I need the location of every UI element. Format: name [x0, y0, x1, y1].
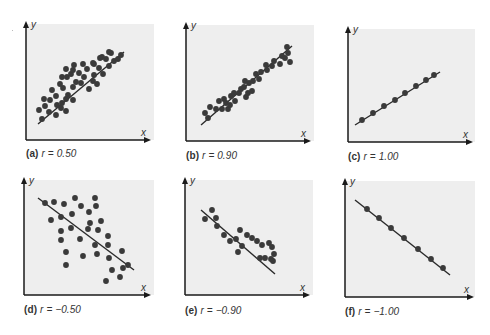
- plot-background: [185, 180, 313, 295]
- data-point: [97, 55, 103, 61]
- panel-label: (f): [345, 306, 355, 317]
- data-point: [87, 220, 93, 226]
- data-point: [59, 74, 65, 80]
- data-point: [80, 253, 86, 259]
- data-point: [254, 238, 260, 244]
- data-point: [269, 63, 275, 69]
- data-point: [63, 249, 69, 255]
- x-axis-label: x: [140, 282, 147, 293]
- data-point: [262, 255, 268, 261]
- data-point: [42, 200, 48, 206]
- data-point: [58, 214, 64, 220]
- data-point: [92, 242, 98, 248]
- data-point: [61, 201, 67, 207]
- data-point: [284, 44, 290, 50]
- data-point: [78, 203, 84, 209]
- panel-label: (a): [26, 148, 39, 159]
- data-point: [232, 98, 238, 104]
- data-point: [423, 77, 429, 83]
- panel-caption-c: (c)r = 1.00: [348, 151, 399, 162]
- correlation-value: r = −0.90: [201, 305, 242, 316]
- data-point: [401, 235, 407, 241]
- data-point: [98, 218, 104, 224]
- scatter-panel-b: yx: [178, 15, 322, 151]
- data-point: [100, 71, 106, 77]
- data-point: [216, 98, 222, 104]
- data-point: [428, 256, 434, 262]
- data-point: [359, 117, 365, 123]
- panel-caption-b: (b)r = 0.90: [186, 150, 237, 161]
- data-point: [264, 67, 270, 73]
- data-point: [65, 92, 71, 98]
- panel-caption-a: (a)r = 0.50: [26, 148, 77, 159]
- plot-background: [345, 181, 475, 297]
- data-point: [96, 65, 102, 71]
- data-point: [237, 227, 243, 233]
- y-axis-label: y: [349, 176, 356, 187]
- panel-caption-e: (e)r = −0.90: [185, 305, 241, 316]
- data-point: [94, 81, 100, 87]
- y-axis-label: y: [352, 24, 359, 35]
- data-point: [270, 258, 276, 264]
- data-point: [253, 71, 259, 77]
- data-point: [259, 242, 265, 248]
- data-point: [381, 103, 387, 109]
- data-point: [70, 84, 76, 90]
- data-point: [91, 72, 97, 78]
- data-point: [39, 116, 45, 122]
- scatter-panel-f: yx: [337, 171, 485, 307]
- data-point: [244, 232, 250, 238]
- x-axis-label: x: [140, 127, 147, 138]
- data-point: [80, 61, 86, 67]
- data-point: [77, 236, 83, 242]
- data-point: [239, 243, 245, 249]
- correlation-value: r = −0.50: [40, 304, 81, 315]
- data-point: [263, 62, 269, 68]
- data-point: [227, 238, 233, 244]
- data-point: [103, 278, 109, 284]
- scatter-plot: yx: [178, 15, 322, 151]
- data-point: [70, 67, 76, 73]
- data-point: [118, 52, 124, 58]
- data-point: [36, 107, 42, 113]
- y-axis-label: y: [28, 175, 35, 186]
- panel-label: (c): [348, 151, 361, 162]
- data-point: [47, 97, 53, 103]
- data-point: [93, 203, 99, 209]
- data-point: [202, 216, 208, 222]
- correlation-value: r = 1.00: [364, 151, 399, 162]
- data-point: [105, 242, 111, 248]
- data-point: [287, 59, 293, 65]
- data-point: [109, 267, 115, 273]
- data-point: [41, 96, 47, 102]
- data-point: [219, 106, 225, 112]
- data-point: [279, 53, 285, 59]
- data-point: [120, 265, 126, 271]
- x-axis-label: x: [463, 284, 470, 295]
- scatter-panel-a: yx: [18, 14, 162, 150]
- data-point: [92, 195, 98, 201]
- data-point: [78, 80, 84, 86]
- data-point: [85, 226, 91, 232]
- data-point: [415, 246, 421, 252]
- data-point: [76, 70, 82, 76]
- data-point: [392, 97, 398, 103]
- data-point: [53, 93, 59, 99]
- data-point: [413, 83, 419, 89]
- data-point: [49, 87, 55, 93]
- data-point: [277, 61, 283, 67]
- correlation-figure: yx (a)r = 0.50 yx (b)r = 0.90 yx (c)r = …: [0, 0, 490, 335]
- data-point: [70, 97, 76, 103]
- panel-caption-d: (d)r = −0.50: [24, 304, 81, 315]
- scatter-plot: yx: [18, 14, 162, 150]
- data-point: [231, 90, 237, 96]
- data-point: [51, 199, 57, 205]
- scatter-panel-d: yx: [16, 170, 162, 305]
- data-point: [370, 110, 376, 116]
- y-axis-label: y: [189, 175, 196, 186]
- data-point: [202, 110, 208, 116]
- data-point: [48, 217, 54, 223]
- data-point: [364, 206, 370, 212]
- x-axis-label: x: [462, 129, 469, 140]
- y-axis-label: y: [30, 19, 37, 30]
